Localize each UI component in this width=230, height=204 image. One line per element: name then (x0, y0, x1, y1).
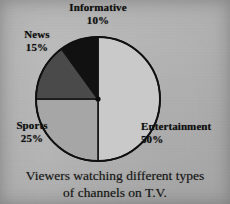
pie-chart-figure: Informative 10% News 15% Sports 25% Ente… (0, 0, 230, 204)
slice-label-sports-percent: 25% (0, 132, 65, 145)
slice-label-informative-percent: 10% (42, 14, 154, 27)
slice-label-news-percent: 15% (4, 41, 70, 54)
pie-center-dot (95, 96, 100, 101)
slice-label-sports: Sports 25% (0, 119, 65, 144)
figure-caption-line-1: Viewers watching different types (0, 167, 230, 184)
slice-label-entertainment-percent: 50% (141, 133, 230, 146)
figure-caption-line-2: of channels on T.V. (0, 184, 230, 201)
slice-label-sports-name: Sports (16, 119, 47, 131)
slice-label-entertainment-name: Entertainment (141, 120, 211, 132)
slice-label-news-name: News (24, 28, 49, 40)
slice-label-informative-name: Informative (69, 1, 126, 13)
slice-label-news: News 15% (4, 28, 70, 53)
slice-label-informative: Informative 10% (42, 1, 154, 26)
figure-caption: Viewers watching different types of chan… (0, 167, 230, 201)
slice-label-entertainment: Entertainment 50% (141, 120, 230, 145)
